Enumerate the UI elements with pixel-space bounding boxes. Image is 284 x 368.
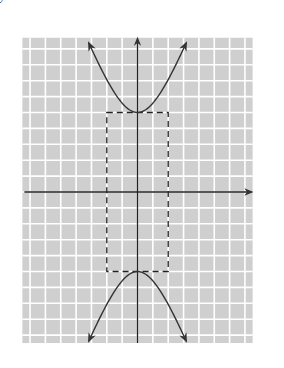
y-axis-label: y [0,0,6,3]
hyperbola-chart: x y [0,0,284,368]
